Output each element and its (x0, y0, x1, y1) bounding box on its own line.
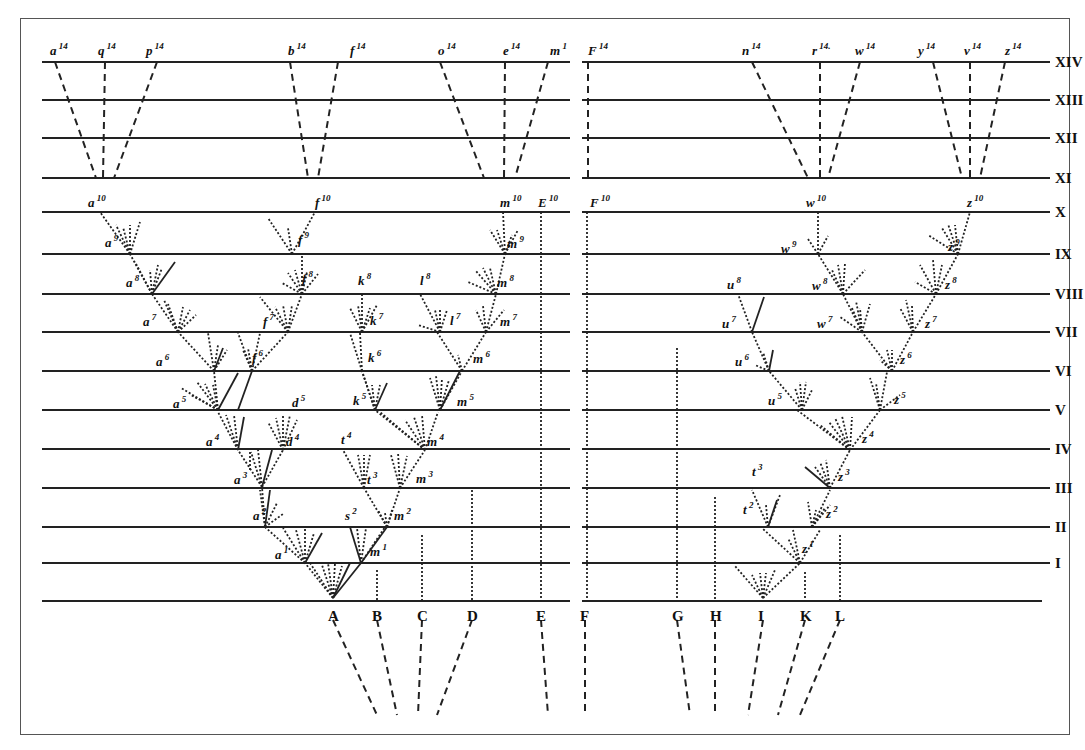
species-label: z 8 (944, 275, 957, 292)
species-label: k 7 (370, 311, 384, 328)
species-label: z 1 (801, 539, 814, 556)
dashed-ancestral-lineage (778, 620, 805, 715)
fan-branch (295, 270, 302, 294)
fan-branch (912, 306, 913, 332)
fan-branch (738, 294, 752, 332)
generation-numeral: IX (1055, 246, 1072, 262)
fan-branch (762, 528, 800, 563)
ancestral-species-label: H (710, 608, 722, 624)
species-label: v 14 (964, 41, 982, 58)
fan-branch (440, 310, 447, 332)
species-label: d 5 (292, 393, 306, 410)
branch-line (843, 294, 862, 332)
dashed-lineage (318, 62, 338, 178)
species-label: F 10 (589, 193, 610, 210)
dashed-lineage (933, 62, 962, 178)
branch-line (214, 371, 218, 410)
species-label: d 4 (286, 432, 300, 449)
species-label: F 14 (587, 41, 608, 58)
dashed-lineage (440, 62, 484, 178)
dashed-ancestral-lineage (418, 620, 422, 715)
fan-branch (437, 332, 462, 371)
fan-branch (843, 270, 865, 294)
ancestral-species-label: D (467, 608, 478, 624)
generation-numeral: XIII (1055, 92, 1084, 108)
species-label: m 3 (416, 469, 433, 486)
species-label: o 14 (438, 41, 456, 58)
species-label: m 5 (457, 392, 474, 409)
branch-line (238, 371, 252, 410)
species-label: y 14 (916, 41, 936, 58)
fan-branch (486, 294, 496, 332)
fan-branch (802, 390, 812, 410)
fan-branch (808, 502, 812, 527)
fan-branch (218, 373, 238, 410)
fan-branch (387, 510, 392, 527)
species-label: a 3 (234, 470, 248, 487)
species-label: z 2 (825, 504, 838, 521)
fan-branch (766, 505, 768, 527)
ancestral-species-label: G (672, 608, 684, 624)
fan-branch (793, 530, 800, 563)
branch-line (752, 332, 769, 371)
fan-branch (208, 333, 214, 371)
dashed-lineage (504, 62, 505, 178)
species-label: m 9 (507, 234, 524, 251)
fan-branch (150, 270, 152, 294)
species-label: m 10 (500, 193, 522, 210)
generation-numeral: V (1055, 402, 1066, 418)
ancestral-species-label: E (536, 608, 546, 624)
generation-numeral: II (1055, 519, 1067, 535)
generation-numeral: VI (1055, 363, 1072, 379)
ancestral-species-label: L (835, 608, 845, 624)
species-label: u 7 (722, 314, 736, 331)
fan-branch (130, 222, 140, 254)
fan-branch (734, 565, 763, 598)
generation-numeral: XII (1055, 130, 1078, 146)
dashed-ancestral-lineage (677, 620, 690, 715)
species-label: f 6 (252, 348, 264, 365)
dashed-lineage (290, 62, 308, 178)
dashed-lineage (515, 62, 548, 178)
species-label: E 10 (537, 193, 558, 210)
fan-branch (458, 355, 462, 371)
fan-branch (243, 350, 252, 371)
species-label: a 4 (206, 432, 220, 449)
fan-branch (418, 325, 440, 332)
fan-branch (262, 450, 272, 487)
fan-branch (808, 239, 818, 254)
species-label: u 8 (727, 275, 741, 292)
ancestral-species-label: F (580, 608, 589, 624)
dashed-lineage (114, 62, 157, 178)
species-label: f 9 (298, 230, 310, 247)
species-label: n 14 (742, 41, 761, 58)
fan-branch (763, 570, 775, 598)
species-label: a 5 (173, 394, 187, 411)
fan-branch (829, 422, 850, 450)
species-label: z 3 (837, 467, 850, 484)
ancestral-species-label: C (417, 608, 428, 624)
generation-numeral: III (1055, 480, 1073, 496)
fan-branch (288, 294, 302, 332)
dashed-lineage (752, 62, 808, 178)
species-label: z 4 (861, 429, 874, 446)
generation-numeral: XI (1055, 170, 1072, 186)
fan-branch (296, 530, 305, 563)
species-label: a 7 (143, 312, 157, 329)
fan-branch (958, 212, 970, 254)
species-label: m 2 (394, 506, 411, 523)
species-label: m 7 (500, 312, 517, 329)
species-label: l 7 (450, 311, 461, 328)
species-label: m 8 (497, 273, 514, 290)
fan-branch (768, 495, 780, 527)
species-label: z 6 (899, 350, 912, 367)
species-label: m 1 (550, 41, 567, 58)
species-label: t 4 (341, 430, 352, 447)
species-label: k 8 (358, 271, 372, 288)
species-label: p 14 (145, 41, 164, 58)
species-label: l 8 (420, 271, 431, 288)
fan-branch (843, 263, 845, 294)
fan-branch (752, 297, 764, 332)
fan-branch (860, 308, 862, 332)
dashed-ancestral-lineage (377, 620, 397, 715)
